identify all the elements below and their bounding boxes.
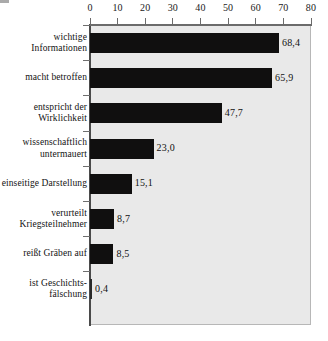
x-axis-tick-label: 10 — [106, 2, 130, 14]
x-axis-tick — [117, 18, 118, 26]
y-axis-tick — [83, 131, 90, 132]
category-label-line: ist Geschichts- — [1, 278, 87, 290]
bar-value-label: 15,1 — [135, 177, 153, 189]
x-axis-tick-label: 70 — [271, 2, 295, 14]
y-axis-tick — [83, 95, 90, 96]
category-label-line: einseitige Darstellung — [1, 178, 87, 190]
category-label: ist Geschichts-fälschung — [1, 278, 87, 301]
category-label-line: Kriegsteilnehmer — [1, 219, 87, 231]
category-label-line: untermauert — [1, 149, 87, 161]
x-axis-tick — [200, 18, 201, 26]
x-axis-tick — [145, 18, 146, 26]
bar — [90, 174, 132, 194]
x-axis-tick-label: 40 — [189, 2, 213, 14]
bar-value-label: 65,9 — [275, 72, 293, 84]
category-label-line: verurteilt — [1, 208, 87, 220]
category-label: einseitige Darstellung — [1, 178, 87, 190]
bar-value-label: 8,5 — [116, 248, 129, 260]
bar — [90, 244, 113, 264]
x-axis-tick-label: 30 — [161, 2, 185, 14]
category-label: macht betroffen — [1, 72, 87, 84]
bar — [90, 209, 114, 229]
x-axis-tick — [255, 18, 256, 26]
bar-value-label: 68,4 — [282, 37, 300, 49]
x-axis-tick-label: 0 — [78, 2, 102, 14]
x-axis-tick-label: 60 — [244, 2, 268, 14]
bar-value-label: 23,0 — [157, 142, 175, 154]
bar-value-label: 0,4 — [95, 283, 108, 295]
y-axis-tick — [83, 60, 90, 61]
x-axis-tick-label: 80 — [299, 2, 323, 14]
x-axis-tick — [311, 18, 312, 26]
x-axis-tick-label: 50 — [216, 2, 240, 14]
bar — [90, 33, 279, 53]
bar-chart-figure: 01020304050607080 68,465,947,723,015,18,… — [0, 0, 328, 341]
category-label: verurteiltKriegsteilnehmer — [1, 208, 87, 231]
y-axis-tick — [83, 25, 90, 26]
y-axis-tick — [83, 271, 90, 272]
bar — [90, 139, 154, 159]
category-label: entspricht derWirklichkeit — [1, 102, 87, 125]
category-label-line: Informationen — [1, 43, 87, 55]
bar — [90, 68, 272, 88]
category-label-line: entspricht der — [1, 102, 87, 114]
category-label-line: fälschung — [1, 289, 87, 301]
y-axis-tick — [83, 166, 90, 167]
category-label-line: reißt Gräben auf — [1, 248, 87, 260]
y-axis-tick — [83, 201, 90, 202]
category-label-line: wichtige — [1, 32, 87, 44]
category-label-line: macht betroffen — [1, 72, 87, 84]
category-label: wichtigeInformationen — [1, 32, 87, 55]
bar-value-label: 8,7 — [117, 213, 130, 225]
x-axis-tick — [283, 18, 284, 26]
category-label-line: Wirklichkeit — [1, 113, 87, 125]
category-label: wissenschaftlichuntermauert — [1, 137, 87, 160]
bar-value-label: 47,7 — [225, 107, 243, 119]
x-axis-tick — [228, 18, 229, 26]
category-label-line: wissenschaftlich — [1, 137, 87, 149]
bar — [90, 103, 222, 123]
x-axis-tick-label: 20 — [133, 2, 157, 14]
bar — [90, 279, 92, 299]
x-axis-tick — [172, 18, 173, 26]
category-label: reißt Gräben auf — [1, 248, 87, 260]
y-axis-tick — [83, 236, 90, 237]
